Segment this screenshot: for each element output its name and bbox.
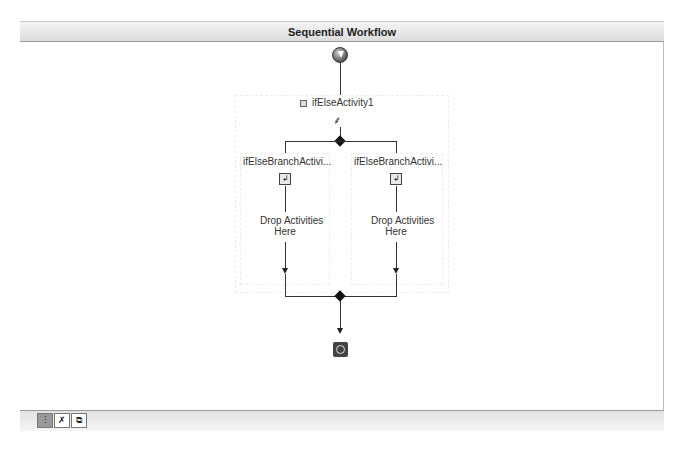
cancel-handler-view-tab[interactable]: ✗: [54, 413, 70, 428]
connector: [285, 141, 286, 153]
connector: [396, 242, 397, 270]
workflow-designer: Sequential Workflow ifElseActivity1 ⸙ if…: [20, 21, 664, 431]
connector: [396, 186, 397, 212]
branch-1-drop-zone[interactable]: Drop Activities Here: [260, 215, 310, 237]
branch-top-line: [285, 141, 396, 142]
workflow-start-icon: [332, 47, 348, 63]
view-tab-bar: ⋮ ✗ ⧉: [20, 410, 664, 431]
connector: [285, 186, 286, 212]
ifelse-activity-name[interactable]: ifElseActivity1: [312, 97, 374, 108]
connector: [396, 141, 397, 153]
fault-handlers-view-tab[interactable]: ⧉: [71, 413, 87, 428]
connector: [340, 63, 341, 95]
branch-2-name[interactable]: ifElseBranchActivi...: [354, 156, 442, 167]
branch-2-icon: ↲: [390, 173, 402, 185]
branch-1-icon: ↲: [279, 173, 291, 185]
branch-1-name[interactable]: ifElseBranchActivi...: [243, 156, 331, 167]
arrow-down-icon: [337, 328, 343, 334]
workflow-view-tab[interactable]: ⋮: [37, 413, 53, 428]
connector: [396, 274, 397, 296]
connector: [340, 300, 341, 330]
branch-2-drop-zone[interactable]: Drop Activities Here: [371, 215, 421, 237]
workflow-title: Sequential Workflow: [288, 26, 396, 38]
designer-canvas[interactable]: ifElseActivity1 ⸙ ifElseBranchActivi... …: [20, 42, 664, 410]
connector: [285, 242, 286, 270]
connector: [285, 274, 286, 296]
workflow-end-icon: [333, 342, 348, 357]
ifelse-activity-icon: ⸙: [333, 112, 341, 127]
designer-header: Sequential Workflow: [20, 21, 664, 42]
collapse-toggle-icon[interactable]: [300, 100, 307, 107]
